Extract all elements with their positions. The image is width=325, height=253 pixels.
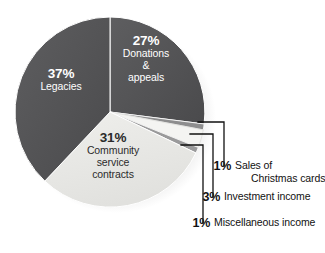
- callout-xmas-line1: Sales of: [235, 159, 325, 172]
- callout-investment: 3% Investment income: [196, 190, 310, 205]
- callout-xmas-line2: Christmas cards: [235, 172, 325, 185]
- callout-pct-investment: 3%: [196, 190, 220, 205]
- callout-misc-line1: Miscellaneous income: [214, 216, 315, 229]
- callout-pct-xmas-cards: 1%: [207, 159, 231, 174]
- callout-name-xmas-cards: Sales of Christmas cards: [235, 159, 325, 185]
- callout-miscellaneous: 1% Miscellaneous income: [186, 216, 315, 231]
- callout-name-investment: Investment income: [224, 190, 310, 203]
- callout-pct-miscellaneous: 1%: [186, 216, 210, 231]
- callout-name-miscellaneous: Miscellaneous income: [214, 216, 315, 229]
- callout-investment-line1: Investment income: [224, 190, 310, 203]
- callout-xmas-cards: 1% Sales of Christmas cards: [207, 159, 325, 185]
- slice-donations[interactable]: [110, 17, 205, 124]
